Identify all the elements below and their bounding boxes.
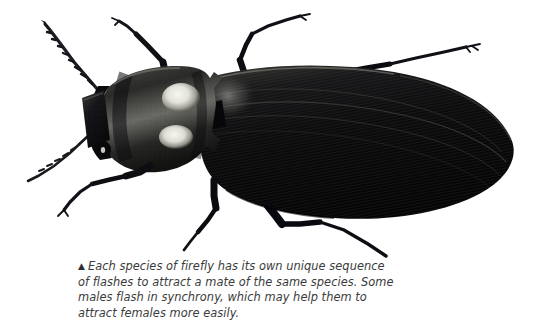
caption-triangle-icon: ▲ — [78, 261, 85, 271]
figure-page: ▲Each species of firefly has its own uni… — [0, 0, 546, 328]
caption-line-2: of flashes to attract a mate of the same… — [78, 275, 378, 290]
caption-line-1: ▲Each species of firefly has its own uni… — [78, 259, 378, 275]
luminescent-spot-lower — [159, 125, 193, 149]
beetle-illustration — [0, 0, 546, 258]
beetle-svg — [0, 0, 546, 258]
figure-caption: ▲Each species of firefly has its own uni… — [78, 259, 378, 321]
caption-line-4: attract females more easily. — [78, 306, 378, 321]
caption-line-3: males flash in synchrony, which may help… — [78, 290, 378, 305]
caption-line-1-text: Each species of firefly has its own uniq… — [88, 259, 385, 273]
luminescent-spot-upper — [162, 83, 200, 113]
